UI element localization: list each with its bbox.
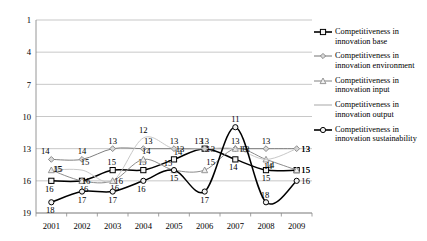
svg-text:2004: 2004 (135, 221, 153, 231)
svg-text:15: 15 (81, 157, 90, 167)
legend-marker-icon (313, 100, 335, 110)
svg-text:13: 13 (262, 136, 271, 146)
legend-item-label: Competitiveness in innovation environmen… (335, 51, 427, 70)
svg-text:18: 18 (261, 190, 270, 200)
legend-marker-icon (313, 27, 335, 37)
svg-text:16: 16 (82, 176, 91, 186)
svg-text:15: 15 (107, 157, 116, 167)
svg-text:15: 15 (170, 173, 179, 183)
svg-text:2005: 2005 (165, 221, 182, 231)
svg-text:4: 4 (27, 47, 32, 57)
legend-item[interactable]: Competitiveness in innovation environmen… (313, 51, 427, 70)
svg-text:17: 17 (108, 195, 117, 205)
svg-text:15: 15 (206, 157, 215, 167)
svg-text:17: 17 (78, 195, 87, 205)
legend-item-label: Competitiveness in innovation output (335, 100, 427, 119)
svg-text:15: 15 (262, 173, 271, 183)
svg-text:2008: 2008 (257, 221, 274, 231)
svg-text:12: 12 (139, 125, 148, 135)
svg-text:13: 13 (108, 136, 117, 146)
axes (36, 20, 312, 217)
svg-text:2007: 2007 (227, 221, 245, 231)
svg-text:16: 16 (45, 184, 54, 194)
chart-legend: Competitiveness in innovation baseCompet… (313, 27, 427, 149)
svg-text:13: 13 (176, 144, 185, 154)
legend-item[interactable]: Competitiveness in innovation sustainabi… (313, 125, 427, 144)
svg-text:2002: 2002 (73, 221, 90, 231)
svg-text:16: 16 (22, 176, 31, 186)
legend-item-label: Competitiveness in innovation input (335, 76, 427, 95)
legend-item-label: Competitiveness in innovation base (335, 27, 427, 46)
gridlines (36, 20, 312, 213)
svg-text:11: 11 (231, 114, 239, 124)
svg-text:14: 14 (264, 161, 273, 171)
svg-text:17: 17 (200, 195, 209, 205)
legend-marker-icon (313, 76, 335, 86)
svg-text:13: 13 (301, 144, 310, 154)
legend-item-label: Competitiveness in innovation sustainabi… (335, 125, 427, 144)
svg-text:2006: 2006 (196, 221, 214, 231)
svg-text:16: 16 (301, 176, 310, 186)
svg-text:14: 14 (78, 146, 87, 156)
y-axis-tick-labels: 14710131619 (22, 15, 31, 218)
svg-text:13: 13 (22, 144, 31, 154)
svg-text:15: 15 (164, 158, 173, 168)
svg-text:2001: 2001 (43, 221, 60, 231)
legend-item[interactable]: Competitiveness in innovation output (313, 100, 427, 119)
svg-text:14: 14 (142, 146, 151, 156)
line-chart: 1471013161920012002200320042005200620072… (0, 0, 427, 241)
svg-text:19: 19 (22, 208, 31, 218)
svg-text:1: 1 (27, 15, 31, 25)
svg-text:15: 15 (301, 165, 310, 175)
legend-marker-icon (313, 125, 335, 135)
svg-text:7: 7 (27, 80, 32, 90)
legend-marker-icon (313, 51, 335, 61)
svg-text:14: 14 (229, 162, 238, 172)
svg-text:10: 10 (22, 112, 31, 122)
svg-text:16: 16 (137, 184, 146, 194)
svg-text:13: 13 (206, 144, 215, 154)
legend-item[interactable]: Competitiveness in innovation base (313, 27, 427, 46)
svg-text:18: 18 (46, 205, 55, 215)
svg-text:2009: 2009 (288, 221, 305, 231)
legend-item[interactable]: Competitiveness in innovation input (313, 76, 427, 95)
svg-text:16: 16 (114, 176, 123, 186)
svg-text:15: 15 (54, 164, 63, 174)
svg-text:2003: 2003 (104, 221, 121, 231)
svg-text:14: 14 (41, 146, 50, 156)
x-axis-tick-labels: 200120022003200420052006200720082009 (43, 221, 306, 231)
